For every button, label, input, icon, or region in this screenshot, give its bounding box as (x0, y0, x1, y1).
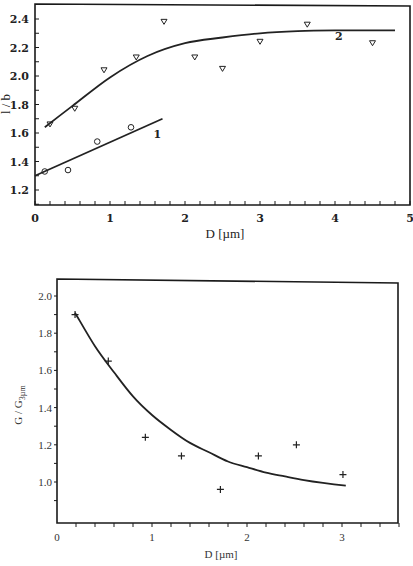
top-y-tick-label: 1.4 (10, 156, 29, 169)
bottom-x-tick-label: 2 (244, 531, 250, 543)
bottom-data-point (142, 434, 149, 441)
series-2-point (72, 106, 78, 111)
bottom-y-tick-label: 1.2 (38, 439, 52, 451)
top-y-tick-label: 2.0 (10, 70, 29, 83)
top-x-tick-label: 2 (181, 212, 189, 225)
figure: 012345 1.21.41.61.82.02.22.4 D [µm] l / … (0, 0, 413, 566)
series-2-point (161, 19, 167, 24)
top-x-tick-label: 0 (31, 212, 39, 225)
bottom-x-tick-label: 3 (339, 531, 345, 543)
series-1-fit-line (35, 119, 163, 176)
top-x-axis-label: D [µm] (206, 226, 245, 241)
top-plot-frame (35, 4, 410, 205)
bottom-x-tick-label: 1 (149, 531, 155, 543)
series-1-point (128, 125, 134, 131)
series-2-point (101, 68, 107, 73)
bottom-data-point (105, 358, 112, 365)
bottom-x-axis-label: D [µm] (205, 548, 238, 560)
bottom-y-axis-label-subscript: 3µm (18, 385, 27, 401)
series-2-label: 2 (335, 30, 343, 43)
bottom-y-tick-label: 1.4 (38, 402, 52, 414)
top-x-tick-label: 5 (406, 212, 413, 225)
series-2-point (192, 55, 198, 60)
top-y-tick-label: 2.2 (10, 42, 29, 55)
top-x-tick-label: 3 (256, 212, 264, 225)
series-2-fit-curve (45, 30, 395, 127)
bottom-fit-curve (75, 313, 346, 486)
top-y-tick-label: 2.4 (10, 13, 29, 26)
top-x-tick-label: 1 (106, 212, 114, 225)
bottom-y-tick-label: 1.0 (38, 476, 52, 488)
series-2-point (257, 39, 263, 44)
top-y-tick-label: 1.6 (10, 127, 29, 140)
series-2-point (304, 22, 310, 27)
bottom-x-tick-label: 0 (54, 531, 60, 543)
bottom-y-tick-label: 2.0 (38, 290, 52, 302)
bottom-data-point (178, 452, 185, 459)
bottom-y-tick-label: 1.6 (38, 364, 52, 376)
series-1-point (94, 139, 100, 145)
bottom-y-axis-label: G / G3µm (12, 385, 27, 425)
bottom-data-point (255, 452, 262, 459)
top-x-tick-label: 4 (331, 212, 339, 225)
top-y-axis-label: l / b (0, 94, 13, 114)
bottom-data-point (293, 441, 300, 448)
bottom-data-point (339, 471, 346, 478)
series-2-point (370, 41, 376, 46)
series-1-point (65, 167, 71, 173)
bottom-y-tick-label: 1.8 (38, 327, 52, 339)
series-1-label: 1 (154, 128, 162, 141)
series-2-point (133, 55, 139, 60)
bottom-chart: 0123 1.01.21.41.61.82.0 D [µm] G / G3µm (12, 279, 399, 560)
top-chart: 012345 1.21.41.61.82.02.22.4 D [µm] l / … (0, 4, 413, 241)
bottom-plot-frame (57, 279, 398, 523)
top-y-tick-label: 1.2 (10, 184, 29, 197)
series-2-point (220, 66, 226, 71)
bottom-y-axis-label-main: G / G (12, 400, 24, 425)
bottom-data-point (217, 486, 224, 493)
